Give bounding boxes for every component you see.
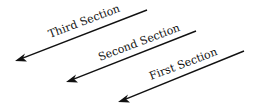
label-second-section: Second Section (96, 21, 181, 64)
label-first-section: First Section (147, 45, 219, 83)
sections-diagram: Third Section Second Section First Secti… (0, 0, 259, 109)
